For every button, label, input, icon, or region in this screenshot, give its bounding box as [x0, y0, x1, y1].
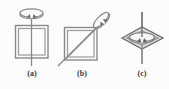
panel-b-rotation-arrow-icon [91, 10, 112, 31]
panel-a-label: (a) [17, 69, 47, 78]
panel-c-label: (c) [127, 69, 157, 78]
rotation-axes-figure: (a) (b) (c) [0, 0, 169, 89]
panel-b-label: (b) [67, 69, 97, 78]
panel-b-diagonal-through-square [65, 28, 98, 61]
panel-c-group [122, 12, 163, 64]
panel-b-group [58, 10, 112, 66]
panel-a-rotation-arrow-icon [20, 9, 43, 19]
panel-a-group [16, 9, 49, 66]
